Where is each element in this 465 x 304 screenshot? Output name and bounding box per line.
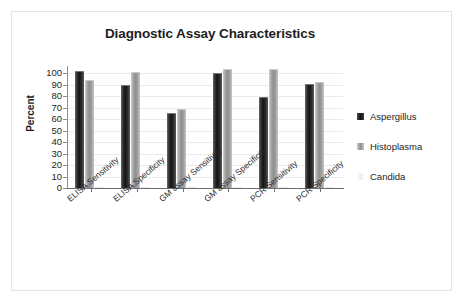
bar-candida-pcr-specificity: [325, 187, 334, 188]
legend-swatch-histoplasma-icon: [357, 143, 364, 150]
chart-title: Diagnostic Assay Characteristics: [0, 26, 420, 41]
bar-candida-gm-assay-specificity: [233, 187, 242, 188]
bar-aspergillus-pcr-specificity: [305, 84, 314, 189]
y-tick-mark: [63, 177, 67, 178]
bar-aspergillus-gm-assay-specificity: [213, 73, 222, 188]
chart-figure: Diagnostic Assay Characteristics 0102030…: [0, 0, 465, 304]
y-tick-mark: [63, 119, 67, 120]
y-tick-mark: [63, 165, 67, 166]
x-tick-mark: [274, 188, 275, 192]
y-tick-mark: [63, 154, 67, 155]
x-tick-mark: [320, 188, 321, 192]
legend-item-histoplasma[interactable]: Histoplasma: [357, 131, 452, 161]
legend-swatch-aspergillus-icon: [357, 113, 364, 120]
legend-item-aspergillus[interactable]: Aspergillus: [357, 101, 452, 131]
bar-aspergillus-elisa-specificity: [121, 85, 130, 188]
bar-histoplasma-gm-assay-specificity: [223, 69, 232, 188]
y-tick-mark: [63, 188, 67, 189]
x-tick-mark: [228, 188, 229, 192]
bar-aspergillus-gm-assay-sensitivity: [167, 113, 176, 188]
chart-legend: AspergillusHistoplasmaCandida: [357, 101, 452, 191]
bar-candida-elisa-sensitivity: [95, 187, 104, 188]
y-tick-mark: [63, 108, 67, 109]
y-tick-mark: [63, 96, 67, 97]
legend-label: Histoplasma: [370, 141, 422, 152]
legend-swatch-candida-icon: [357, 173, 364, 180]
bar-candida-pcr-sensitivity: [279, 187, 288, 188]
x-tick-mark: [91, 188, 92, 192]
bar-candida-gm-assay-sensitivity: [187, 187, 196, 188]
legend-item-candida[interactable]: Candida: [357, 161, 452, 191]
bar-histoplasma-elisa-specificity: [131, 72, 140, 188]
y-axis-title: Percent: [25, 83, 36, 145]
y-tick-label: 0: [18, 183, 62, 192]
x-tick-mark: [183, 188, 184, 192]
legend-label: Aspergillus: [370, 111, 416, 122]
bar-histoplasma-pcr-sensitivity: [269, 69, 278, 188]
x-tick-mark: [137, 188, 138, 192]
y-tick-mark: [63, 142, 67, 143]
y-tick-label: 30: [18, 149, 62, 158]
y-tick-label: 100: [18, 68, 62, 77]
y-tick-mark: [63, 85, 67, 86]
y-tick-mark: [63, 131, 67, 132]
y-tick-label: 20: [18, 160, 62, 169]
bar-candida-elisa-specificity: [141, 187, 150, 188]
y-tick-labels: 0102030405060708090100: [14, 0, 62, 304]
legend-label: Candida: [370, 171, 405, 182]
y-tick-label: 10: [18, 172, 62, 181]
bar-aspergillus-elisa-sensitivity: [75, 71, 84, 188]
bar-aspergillus-pcr-sensitivity: [259, 97, 268, 188]
y-tick-mark: [63, 73, 67, 74]
